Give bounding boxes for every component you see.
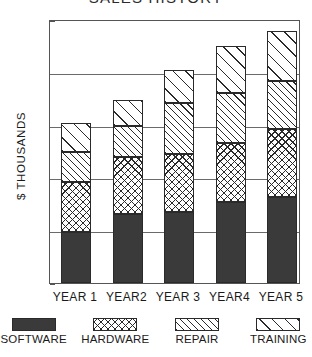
bar-segment[interactable]	[61, 123, 91, 153]
stacked-bar-chart: SALES HISTORY $ THOUSANDS 05010015020025…	[0, 0, 312, 357]
bar-segment[interactable]	[216, 143, 246, 202]
chart-title: SALES HISTORY	[0, 0, 312, 6]
bar-segment[interactable]	[164, 103, 194, 154]
legend-swatch	[93, 318, 137, 331]
bar-segment[interactable]	[164, 154, 194, 212]
bar-segment[interactable]	[216, 202, 246, 283]
legend-label: HARDWARE	[81, 333, 149, 345]
legend-label: REPAIR	[175, 333, 218, 345]
bar-segment[interactable]	[113, 100, 143, 125]
legend-swatch	[175, 318, 219, 331]
legend-label: SOFTWARE	[0, 333, 66, 345]
bar-stack[interactable]	[216, 19, 246, 283]
bar-segment[interactable]	[267, 129, 297, 198]
bar-segment[interactable]	[267, 81, 297, 129]
bar-segment[interactable]	[164, 70, 194, 104]
y-axis-title: $ THOUSANDS	[15, 81, 27, 231]
legend-item[interactable]: HARDWARE	[81, 318, 149, 345]
bar-segment[interactable]	[216, 93, 246, 143]
bar-stack[interactable]	[164, 19, 194, 283]
y-axis-tick-mark	[50, 284, 55, 285]
bar-stack[interactable]	[267, 19, 297, 283]
bar-segment[interactable]	[267, 197, 297, 283]
bar-segment[interactable]	[61, 232, 91, 283]
bar-stack[interactable]	[113, 19, 143, 283]
legend-swatch	[12, 318, 56, 331]
bar-segment[interactable]	[113, 157, 143, 214]
bar-segment[interactable]	[113, 214, 143, 283]
legend-swatch	[256, 318, 300, 331]
bar-segment[interactable]	[113, 126, 143, 158]
chart-legend: SOFTWAREHARDWAREREPAIRTRAINING	[0, 318, 312, 354]
y-axis-tick-mark	[50, 21, 55, 22]
plot-area	[49, 20, 300, 284]
bar-segment[interactable]	[216, 46, 246, 92]
x-axis-tick-label: YEAR 5	[246, 290, 312, 304]
legend-item[interactable]: SOFTWARE	[0, 318, 67, 345]
bar-segment[interactable]	[61, 152, 91, 182]
bar-stack[interactable]	[61, 19, 91, 283]
legend-item[interactable]: REPAIR	[163, 318, 230, 345]
bar-segment[interactable]	[267, 31, 297, 82]
legend-label: TRAINING	[250, 333, 307, 345]
bar-segment[interactable]	[61, 182, 91, 233]
bar-segment[interactable]	[164, 212, 194, 283]
legend-item[interactable]: TRAINING	[245, 318, 312, 345]
